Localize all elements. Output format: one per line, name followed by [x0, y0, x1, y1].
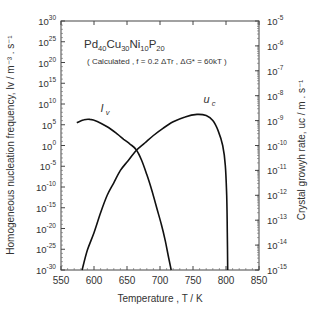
left-y-tick-label: 1020 — [38, 56, 56, 69]
chart-subtitle: ( Calculated , f = 0.2 ΔTr , ΔG* = 60kT … — [87, 57, 227, 66]
left-y-tick-label: 1010 — [38, 97, 56, 110]
data-series: Ivuc — [77, 93, 228, 270]
left-y-tick-label: 10-20 — [36, 222, 56, 235]
left-y-tick-label: 1015 — [38, 76, 56, 89]
series-Iv — [77, 119, 171, 270]
right-y-tick-label: 10-12 — [267, 188, 287, 201]
left-y-axis-label: Homogeneous nucleation frequency, Iv / m… — [5, 35, 16, 255]
left-y-tick-label: 10-25 — [36, 242, 56, 255]
series-label-uc: uc — [204, 93, 216, 108]
right-y-tick-label: 10-8 — [267, 89, 284, 102]
chart-title: Pd40Cu30Ni10P20 — [84, 38, 165, 53]
left-y-tick-label: 100 — [42, 139, 57, 152]
x-tick-label: 850 — [251, 275, 268, 286]
x-tick-label: 550 — [53, 275, 70, 286]
left-y-tick-label: 10-15 — [36, 201, 56, 214]
series-uc — [82, 114, 228, 270]
left-y-tick-label: 105 — [42, 118, 57, 131]
left-y-tick-label: 1030 — [38, 14, 56, 27]
right-y-tick-label: 10-13 — [267, 213, 287, 226]
series-label-iv: Iv — [101, 102, 111, 117]
right-y-tick-label: 10-7 — [267, 64, 284, 77]
right-y-tick-label: 10-5 — [267, 14, 284, 27]
right-y-axis-label: Crystal growyh rate, uc / m . s⁻¹ — [296, 79, 307, 220]
right-y-tick-label: 10-6 — [267, 39, 284, 52]
left-y-tick-label: 1025 — [38, 35, 56, 48]
right-y-axis-ticks: 10-510-610-710-810-910-1010-1110-1210-13… — [255, 14, 287, 276]
right-y-tick-label: 10-15 — [267, 263, 287, 276]
x-tick-label: 600 — [86, 275, 103, 286]
right-y-tick-label: 10-14 — [267, 238, 287, 251]
right-y-tick-label: 10-11 — [267, 163, 287, 176]
x-tick-label: 700 — [152, 275, 169, 286]
chart: 550600650700750800850 103010251020101510… — [0, 0, 317, 315]
right-y-tick-label: 10-10 — [267, 139, 287, 152]
left-y-tick-label: 10-5 — [40, 159, 57, 172]
x-tick-label: 800 — [218, 275, 235, 286]
x-axis-label: Temperature , T / K — [117, 293, 203, 304]
left-y-tick-label: 10-10 — [36, 180, 56, 193]
x-tick-label: 750 — [185, 275, 202, 286]
right-y-tick-label: 10-9 — [267, 114, 284, 127]
x-tick-label: 650 — [119, 275, 136, 286]
